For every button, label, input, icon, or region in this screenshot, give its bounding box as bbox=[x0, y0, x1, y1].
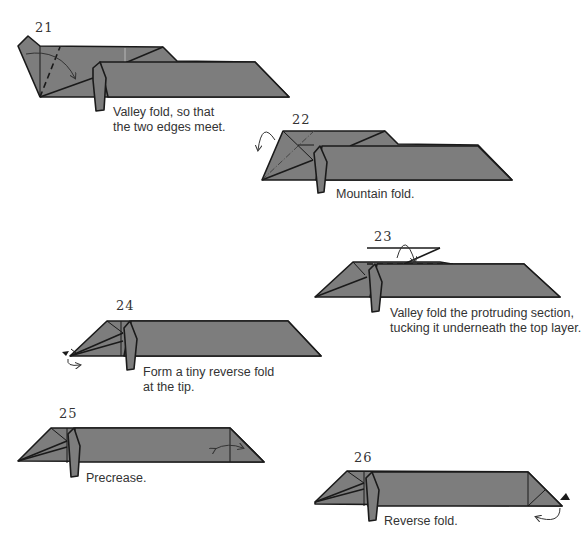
step-26-caption: Reverse fold. bbox=[384, 514, 458, 529]
step-25-number: 25 bbox=[59, 406, 78, 421]
step-25-caption: Precrease. bbox=[86, 471, 146, 486]
step-22-diagram bbox=[258, 131, 512, 193]
step-23-front-flap bbox=[370, 264, 560, 297]
step-26-reverse-arrow-icon bbox=[536, 508, 560, 520]
step-22-number: 22 bbox=[292, 112, 311, 127]
step-23-caption: Valley fold the protruding section, tuck… bbox=[390, 306, 581, 336]
step-24-caption: Form a tiny reverse fold at the tip. bbox=[143, 365, 274, 395]
step-21-caption-line2: the two edges meet. bbox=[113, 120, 226, 135]
step-24-reverse-arrow-icon bbox=[68, 359, 80, 365]
step-22-caption: Mountain fold. bbox=[336, 187, 415, 202]
step-22-caption-line1: Mountain fold. bbox=[336, 187, 415, 202]
step-22-mountain-arrow-icon bbox=[258, 132, 275, 150]
step-21-caption: Valley fold, so that the two edges meet. bbox=[113, 105, 226, 135]
step-26-number: 26 bbox=[354, 450, 373, 465]
step-21-front-flap bbox=[100, 62, 289, 97]
step-21-diagram bbox=[18, 36, 289, 111]
step-24-front-flap bbox=[124, 321, 321, 356]
step-25-diagram bbox=[18, 428, 264, 477]
step-24-number: 24 bbox=[116, 298, 135, 313]
step-24-push-arrow-icon bbox=[62, 351, 69, 356]
step-25-front-flap bbox=[71, 428, 264, 462]
step-23-caption-line1: Valley fold the protruding section, bbox=[390, 306, 581, 321]
step-21-caption-line1: Valley fold, so that bbox=[113, 105, 226, 120]
step-23-caption-line2: tucking it underneath the top layer. bbox=[390, 321, 581, 336]
step-26-push-arrow-icon bbox=[560, 493, 570, 500]
step-26-caption-line1: Reverse fold. bbox=[384, 514, 458, 529]
step-23-diagram bbox=[315, 245, 560, 312]
step-23-number: 23 bbox=[374, 229, 393, 244]
step-24-diagram bbox=[62, 321, 321, 370]
step-24-caption-line2: at the tip. bbox=[143, 380, 274, 395]
step-25-caption-line1: Precrease. bbox=[86, 471, 146, 486]
step-21-number: 21 bbox=[35, 20, 54, 35]
origami-diagram-canvas bbox=[0, 0, 584, 536]
step-24-caption-line1: Form a tiny reverse fold bbox=[143, 365, 274, 380]
step-22-front-flap bbox=[316, 146, 512, 180]
